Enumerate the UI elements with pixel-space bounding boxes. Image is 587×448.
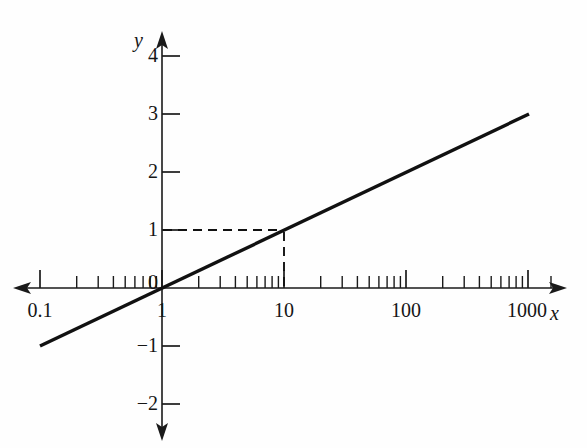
y-tick-label-4: 4 — [140, 45, 158, 65]
x-tick-label-1: 1 — [148, 300, 176, 320]
x-tick-label-0p1: 0.1 — [18, 300, 62, 320]
y-tick-label-3: 3 — [140, 103, 158, 123]
y-tick-label-neg2: −2 — [126, 393, 158, 413]
y-tick-label-2: 2 — [140, 161, 158, 181]
y-tick-label-0: 0 — [140, 272, 158, 292]
y-tick-label-neg1: −1 — [126, 335, 158, 355]
x-tick-label-10: 10 — [266, 300, 302, 320]
x-tick-label-1000: 1000 — [498, 300, 556, 320]
y-tick-label-1: 1 — [140, 219, 158, 239]
semilog-plot — [0, 0, 587, 448]
chart-canvas: y x 4 3 2 1 0 −1 −2 0.1 1 10 100 1000 — [0, 0, 587, 448]
x-tick-label-100: 100 — [382, 300, 430, 320]
